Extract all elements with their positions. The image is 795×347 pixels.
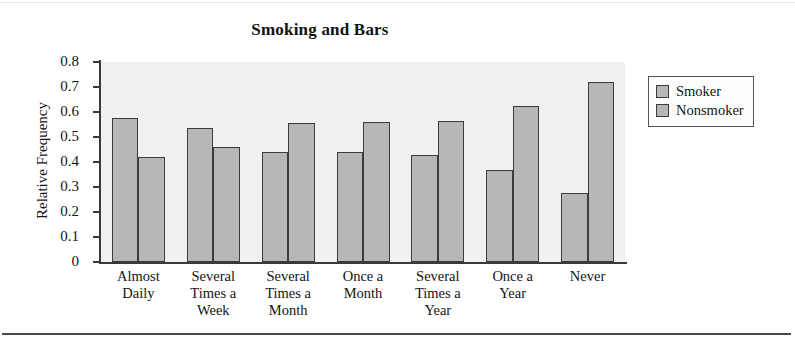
legend-swatch-icon [656, 85, 669, 98]
y-tick-label: 0.6 [19, 104, 79, 119]
bar-nonsmoker-3 [363, 122, 390, 262]
legend-swatch-icon [656, 104, 669, 117]
bar-smoker-0 [112, 118, 139, 262]
x-tick-label: Once aMonth [326, 268, 401, 302]
bar-nonsmoker-1 [213, 147, 240, 262]
x-axis-line [99, 262, 627, 264]
y-tick-label: 0.7 [19, 79, 79, 94]
bar-nonsmoker-2 [288, 123, 315, 262]
y-tick-label: 0.8 [19, 54, 79, 69]
x-tick-label: Never [550, 268, 625, 285]
y-tick-label: 0.1 [19, 229, 79, 244]
y-tick-label: 0 [19, 254, 79, 269]
bar-nonsmoker-6 [588, 82, 615, 262]
y-tick-label: 0.3 [19, 179, 79, 194]
y-tick-mark [93, 211, 100, 213]
legend: Smoker Nonsmoker [648, 76, 754, 127]
y-tick-mark [93, 186, 100, 188]
y-tick-label: 0.2 [19, 204, 79, 219]
y-tick-mark [93, 161, 100, 163]
legend-label: Nonsmoker [676, 102, 744, 119]
y-tick-mark [93, 111, 100, 113]
y-tick-mark [93, 261, 100, 263]
legend-item-smoker[interactable]: Smoker [656, 82, 744, 101]
legend-item-nonsmoker[interactable]: Nonsmoker [656, 101, 744, 120]
figure-smoking-and-bars: Smoking and Bars Relative Frequency 00.1… [0, 0, 795, 347]
y-tick-mark [93, 86, 100, 88]
y-tick-mark [93, 136, 100, 138]
y-tick-mark [93, 61, 100, 63]
bar-smoker-5 [486, 170, 513, 263]
bottom-divider [2, 333, 791, 335]
x-tick-label: AlmostDaily [101, 268, 176, 302]
bar-smoker-6 [561, 193, 588, 262]
bar-nonsmoker-5 [513, 106, 540, 262]
bar-nonsmoker-0 [138, 157, 165, 262]
x-tick-label: SeveralTimes aYear [400, 268, 475, 319]
x-tick-label: SeveralTimes aMonth [251, 268, 326, 319]
bar-smoker-2 [262, 152, 289, 262]
bar-smoker-1 [187, 128, 214, 262]
bar-smoker-4 [411, 155, 438, 263]
x-tick-label: Once aYear [475, 268, 550, 302]
y-tick-mark [93, 236, 100, 238]
y-tick-label: 0.5 [19, 129, 79, 144]
page-title: Smoking and Bars [0, 20, 640, 40]
bar-nonsmoker-4 [438, 121, 465, 262]
legend-label: Smoker [676, 83, 721, 100]
x-tick-label: SeveralTimes aWeek [176, 268, 251, 319]
bar-smoker-3 [337, 152, 364, 262]
top-divider [0, 2, 795, 3]
y-tick-label: 0.4 [19, 154, 79, 169]
